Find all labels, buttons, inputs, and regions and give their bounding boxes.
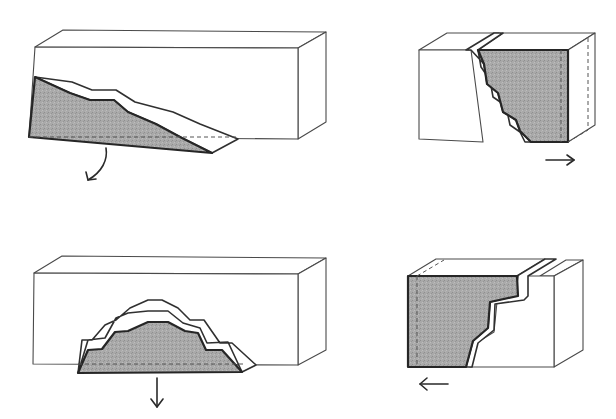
diagram-canvas xyxy=(0,0,616,419)
panel-bottom-left xyxy=(33,256,326,407)
shaded-sliding-mass xyxy=(478,50,568,142)
panel-top-right xyxy=(419,33,595,165)
block-front-face xyxy=(419,50,483,142)
panel-bottom-right xyxy=(408,259,583,390)
block-side-face xyxy=(298,258,326,365)
curved-arrow-icon xyxy=(88,148,106,180)
moving-block-side-face xyxy=(568,33,595,142)
panel-top-left xyxy=(29,30,326,180)
block-top-face xyxy=(35,30,326,48)
block-side-face xyxy=(298,32,326,139)
block-side-face xyxy=(554,260,583,367)
block-top-face xyxy=(34,256,326,274)
